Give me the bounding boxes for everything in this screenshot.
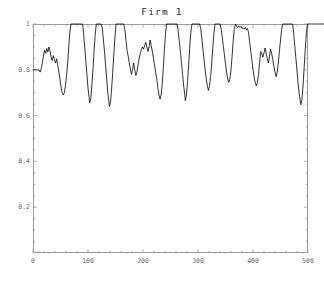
axis-tick-marks (33, 24, 308, 253)
chart-title: Firm 1 (0, 6, 324, 17)
y-tick-label: 0.4 (18, 158, 30, 165)
chart-screenshot: Firm 1 0.20.40.60.81 0100200300400500 (0, 0, 324, 284)
plot-area (33, 24, 308, 253)
y-axis-tick-labels: 0.20.40.60.81 (0, 0, 30, 284)
x-tick-label: 300 (192, 258, 204, 265)
y-tick-label: 0.6 (18, 113, 30, 120)
y-tick-label: 0.8 (18, 67, 30, 74)
x-tick-label: 200 (137, 258, 149, 265)
y-tick-label: 1 (26, 21, 30, 28)
x-tick-label: 0 (31, 258, 35, 265)
x-tick-label: 500 (302, 258, 314, 265)
y-tick-label: 0.2 (18, 204, 30, 211)
x-axis-tick-labels: 0100200300400500 (0, 258, 324, 270)
series-path-firm-1 (33, 24, 324, 106)
x-tick-label: 400 (247, 258, 259, 265)
series-line-chart (33, 24, 308, 253)
x-tick-label: 100 (82, 258, 94, 265)
